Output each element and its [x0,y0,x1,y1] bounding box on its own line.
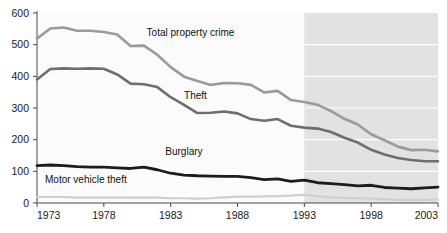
y-tick-label: 600 [11,7,29,19]
x-tick-label: 1973 [37,209,61,221]
y-tick-label: 200 [11,133,29,145]
y-tick-label: 500 [11,38,29,50]
series-annotation-label: Total property crime [147,27,235,38]
x-tick-label: 1988 [226,209,250,221]
y-tick-label: 300 [11,102,29,114]
y-axis-ticks: 0100200300400500600 [11,7,37,209]
series-annotation-label: Theft [184,90,207,101]
x-tick-label: 2003 [415,209,439,221]
series-annotation-label: Motor vehicle theft [45,174,127,185]
x-axis-ticks: 1973197819831988199319982003 [37,203,438,221]
x-tick-label: 1978 [92,209,116,221]
y-tick-label: 0 [23,197,29,209]
x-tick-label: 1993 [293,209,317,221]
chart-canvas: 0100200300400500600 19731978198319881993… [0,0,447,233]
series-annotation-label: Burglary [165,146,202,157]
y-tick-label: 400 [11,70,29,82]
y-tick-label: 100 [11,165,29,177]
x-tick-label: 1998 [359,209,383,221]
x-tick-label: 1983 [159,209,183,221]
property-crime-rate-chart: 0100200300400500600 19731978198319881993… [0,0,447,233]
